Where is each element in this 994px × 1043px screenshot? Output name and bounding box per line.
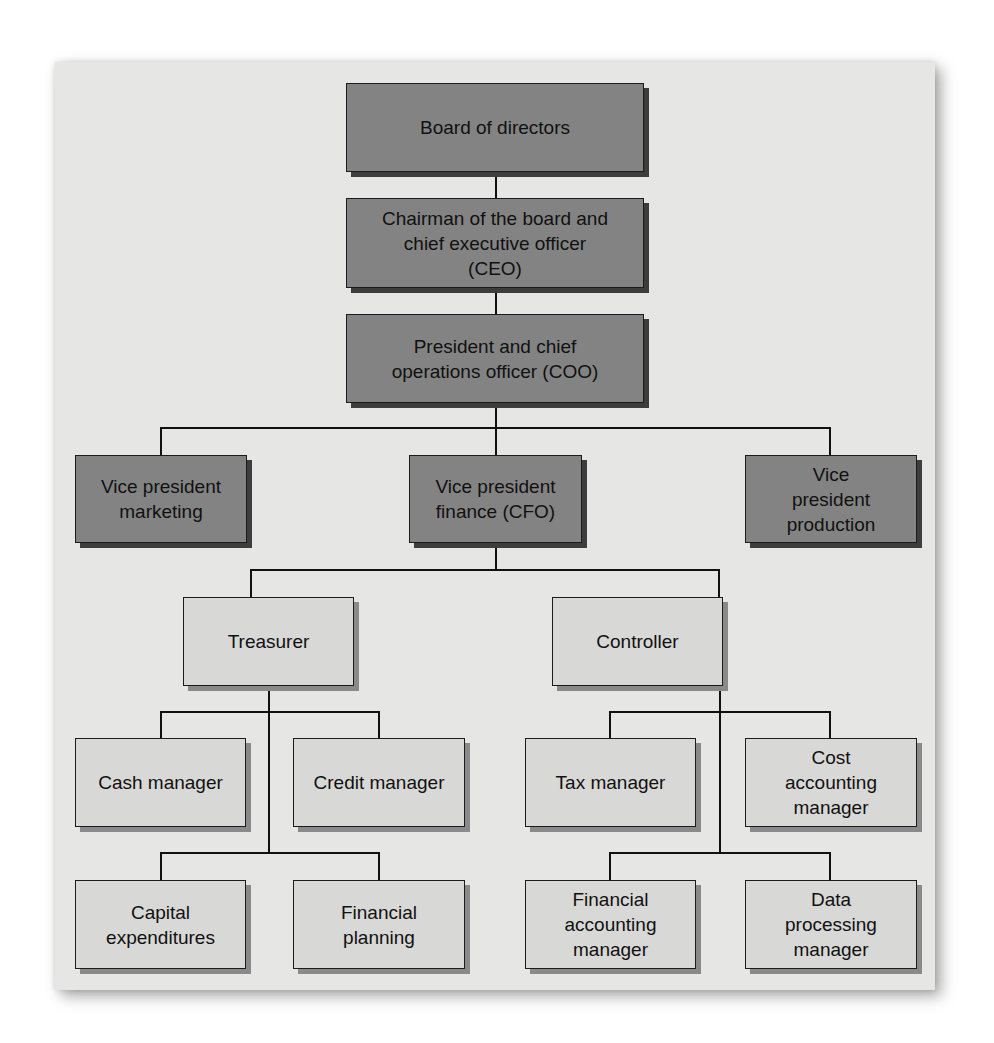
node-label: Credit manager xyxy=(314,770,445,795)
node-vp-marketing: Vice president marketing xyxy=(75,455,247,543)
connector-cfo-trunk xyxy=(495,542,497,570)
connector-finance-bus xyxy=(250,569,720,571)
node-label: Controller xyxy=(596,629,678,654)
node-capital-expenditures: Capital expenditures xyxy=(75,880,246,969)
connector-cost-accounting xyxy=(829,711,831,738)
node-label: Tax manager xyxy=(556,770,666,795)
connector-coo-trunk xyxy=(495,403,497,455)
node-label: Treasurer xyxy=(228,629,310,654)
connector-credit-manager xyxy=(378,711,380,738)
connector-cash-manager xyxy=(160,711,162,738)
connector-board-ceo xyxy=(495,172,497,198)
node-controller: Controller xyxy=(552,597,723,686)
node-label: Vice president finance (CFO) xyxy=(435,474,555,524)
node-vp-finance: Vice president finance (CFO) xyxy=(409,455,582,543)
connector-financial-planning xyxy=(378,852,380,880)
connector-treasurer xyxy=(250,569,252,597)
node-label: Board of directors xyxy=(420,115,570,140)
connector-controller-bus-2 xyxy=(609,852,831,854)
node-cost-accounting-manager: Cost accounting manager xyxy=(745,738,917,827)
node-label: Vice president production xyxy=(787,462,876,537)
node-financial-accounting-manager: Financial accounting manager xyxy=(525,880,696,969)
node-label: Financial accounting manager xyxy=(565,887,657,962)
node-tax-manager: Tax manager xyxy=(525,738,696,827)
node-label: President and chief operations officer (… xyxy=(392,334,599,384)
node-label: Data processing manager xyxy=(785,887,877,962)
connector-treasurer-bus-2 xyxy=(160,852,380,854)
node-credit-manager: Credit manager xyxy=(293,738,465,827)
connector-data-processing xyxy=(829,852,831,880)
node-label: Capital expenditures xyxy=(106,900,215,950)
node-label: Vice president marketing xyxy=(101,474,221,524)
connector-controller xyxy=(718,569,720,597)
connector-capital-expenditures xyxy=(160,852,162,880)
connector-vp-bus xyxy=(160,427,831,429)
node-label: Financial planning xyxy=(341,900,417,950)
node-label: Chairman of the board and chief executiv… xyxy=(382,206,608,281)
connector-tax-manager xyxy=(609,711,611,738)
node-ceo: Chairman of the board and chief executiv… xyxy=(346,198,644,288)
connector-treasurer-bus-1 xyxy=(160,711,380,713)
connector-ceo-coo xyxy=(495,288,497,314)
node-label: Cost accounting manager xyxy=(785,745,877,820)
node-treasurer: Treasurer xyxy=(183,597,354,686)
node-financial-planning: Financial planning xyxy=(293,880,465,969)
node-vp-production: Vice president production xyxy=(745,455,917,543)
node-coo: President and chief operations officer (… xyxy=(346,314,644,403)
node-board-of-directors: Board of directors xyxy=(346,83,644,172)
connector-vp-production xyxy=(829,427,831,455)
node-cash-manager: Cash manager xyxy=(75,738,246,827)
node-data-processing-manager: Data processing manager xyxy=(745,880,917,969)
node-label: Cash manager xyxy=(98,770,223,795)
connector-financial-accounting xyxy=(609,852,611,880)
connector-vp-marketing xyxy=(160,427,162,455)
connector-controller-bus-1 xyxy=(609,711,831,713)
